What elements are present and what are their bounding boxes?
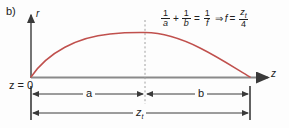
fraction-numerator: 1 <box>161 9 170 18</box>
fraction-numerator: zt <box>238 8 248 19</box>
dim-total-label: zt <box>133 107 146 120</box>
dim-a-label: a <box>83 88 95 99</box>
fraction-numerator: 1 <box>182 9 191 18</box>
figure-panel-b: b) r z z = 0 a b zt 1 a + 1 b = 1 f ⇒ f … <box>0 0 289 128</box>
fraction-numerator-subscript: t <box>245 12 247 19</box>
fraction-numerator: 1 <box>203 9 212 18</box>
lens-equation: 1 a + 1 b = 1 f ⇒ f = zt 4 <box>160 8 250 30</box>
fraction-denominator: 4 <box>239 19 248 29</box>
beam-envelope-curve <box>31 33 250 77</box>
fraction-one-over-f: 1 f <box>203 9 212 29</box>
fraction-one-over-b: 1 b <box>182 9 191 29</box>
r-axis-label: r <box>36 9 39 19</box>
fraction-denominator: f <box>204 18 211 28</box>
panel-label: b) <box>6 6 16 17</box>
implies-arrow-icon: ⇒ <box>214 14 224 24</box>
fraction-denominator: b <box>182 18 191 28</box>
fraction-zt-over-4: zt 4 <box>238 8 248 30</box>
equals-operator: = <box>193 14 201 24</box>
fraction-denominator: a <box>161 18 170 28</box>
dim-total-label-subscript: t <box>142 113 144 120</box>
dim-b-label: b <box>195 88 207 99</box>
z-axis-label: z <box>271 69 276 79</box>
result-equals-operator: = <box>229 14 237 24</box>
fraction-one-over-a: 1 a <box>161 9 170 29</box>
plus-operator: + <box>172 14 180 24</box>
focal-length-variable: f <box>225 14 228 24</box>
origin-label: z = 0 <box>9 80 33 91</box>
